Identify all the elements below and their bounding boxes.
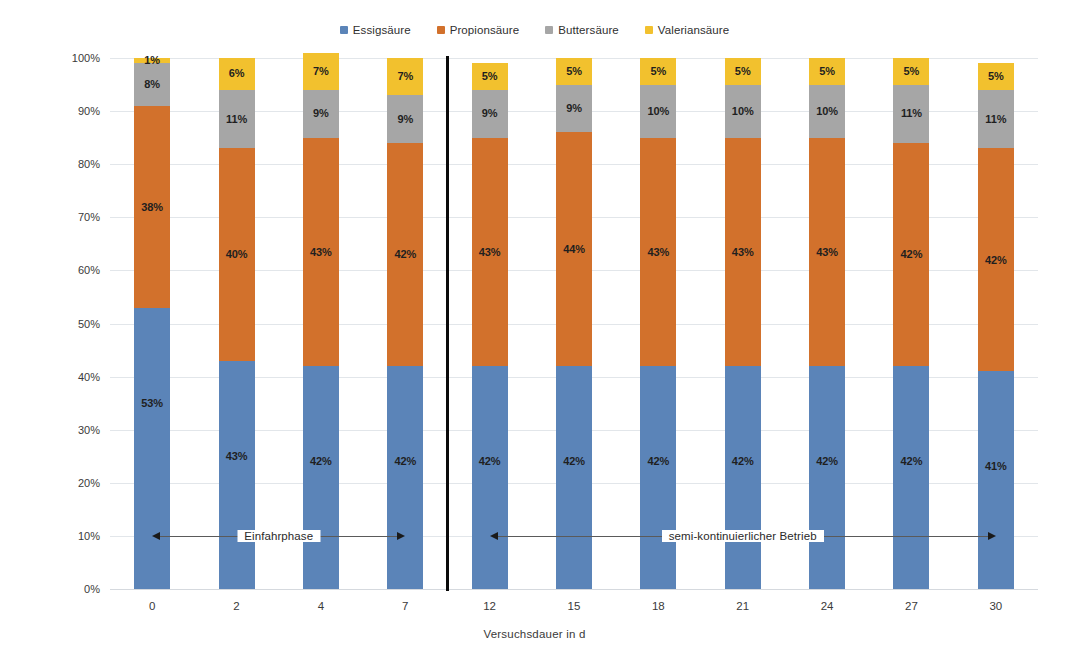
bar-column[interactable]: 41%42%11%5% <box>978 58 1014 589</box>
bar-column[interactable]: 42%43%10%5% <box>725 58 761 589</box>
bar-segment[interactable]: 42% <box>303 366 339 589</box>
bar-column[interactable]: 43%40%11%6% <box>219 58 255 589</box>
legend-item-essigsaeure[interactable]: Essigsäure <box>340 24 411 36</box>
bar-segment[interactable]: 5% <box>472 63 508 90</box>
legend-swatch-essigsaeure <box>340 26 348 34</box>
bar-segment-label: 42% <box>394 456 416 467</box>
bar-segment[interactable]: 1% <box>134 58 170 63</box>
legend-swatch-buttersaeure <box>545 26 553 34</box>
y-axis-tick-label: 20% <box>40 477 100 489</box>
bar-segment[interactable]: 11% <box>893 85 929 143</box>
bar-column[interactable]: 42%43%9%5% <box>472 58 508 589</box>
bar-segment[interactable]: 43% <box>472 138 508 366</box>
bar-segment-label: 43% <box>226 451 248 462</box>
bar-segment[interactable]: 38% <box>134 106 170 308</box>
bar-segment[interactable]: 42% <box>978 148 1014 371</box>
bar-segment-label: 41% <box>985 461 1007 472</box>
bar-segment[interactable]: 40% <box>219 148 255 360</box>
bar-segment-label: 9% <box>566 103 582 114</box>
bar-segment[interactable]: 10% <box>725 85 761 138</box>
bar-segment[interactable]: 42% <box>556 366 592 589</box>
bar-segment[interactable]: 5% <box>893 58 929 85</box>
bar-segment-label: 44% <box>563 244 585 255</box>
legend-label-buttersaeure: Buttersäure <box>558 24 619 36</box>
bar-segment[interactable]: 8% <box>134 63 170 105</box>
bar-segment-label: 42% <box>732 456 754 467</box>
bar-segment[interactable]: 42% <box>725 366 761 589</box>
y-axis-tick-label: 40% <box>40 371 100 383</box>
bar-segment[interactable]: 42% <box>893 366 929 589</box>
bar-segment[interactable]: 6% <box>219 58 255 90</box>
bar-segment[interactable]: 42% <box>893 143 929 366</box>
bar-segment[interactable]: 5% <box>725 58 761 85</box>
bar-segment[interactable]: 10% <box>809 85 845 138</box>
bar-segment[interactable]: 5% <box>978 63 1014 90</box>
bar-segment-label: 10% <box>816 106 838 117</box>
bar-segment-label: 5% <box>904 66 920 77</box>
legend-item-propionsaeure[interactable]: Propionsäure <box>437 24 520 36</box>
bar-column[interactable]: 42%43%10%5% <box>809 58 845 589</box>
bar-segment-label: 9% <box>313 108 329 119</box>
x-axis-tick-label: 7 <box>375 600 435 612</box>
bar-segment-label: 8% <box>144 79 160 90</box>
bar-segment[interactable]: 7% <box>303 53 339 90</box>
x-axis-tick-label: 27 <box>881 600 941 612</box>
bar-segment-label: 42% <box>394 249 416 260</box>
y-axis-tick-label: 100% <box>40 52 100 64</box>
bar-segment[interactable]: 11% <box>219 90 255 148</box>
bar-segment[interactable]: 42% <box>387 143 423 366</box>
x-axis-tick-label: 2 <box>207 600 267 612</box>
bar-segment-label: 43% <box>816 246 838 257</box>
bar-column[interactable]: 42%44%9%5% <box>556 58 592 589</box>
bar-segment[interactable]: 11% <box>978 90 1014 148</box>
bar-segment[interactable]: 9% <box>303 90 339 138</box>
x-axis-tick-label: 15 <box>544 600 604 612</box>
legend-label-essigsaeure: Essigsäure <box>353 24 411 36</box>
bar-segment[interactable]: 43% <box>725 138 761 366</box>
bar-segment[interactable]: 43% <box>219 361 255 589</box>
bar-segment-label: 43% <box>310 246 332 257</box>
bar-segment-label: 5% <box>988 71 1004 82</box>
y-axis-tick-label: 0% <box>40 583 100 595</box>
bar-segment[interactable]: 42% <box>809 366 845 589</box>
bar-segment[interactable]: 42% <box>472 366 508 589</box>
bar-segment[interactable]: 43% <box>640 138 676 366</box>
bar-segment-label: 42% <box>901 456 923 467</box>
bar-segment-label: 42% <box>901 249 923 260</box>
legend-item-valeriansaeure[interactable]: Valeriansäure <box>645 24 729 36</box>
bar-segment-label: 42% <box>563 456 585 467</box>
bar-segment[interactable]: 42% <box>640 366 676 589</box>
bar-segment-label: 43% <box>479 246 501 257</box>
bar-segment[interactable]: 44% <box>556 132 592 366</box>
bar-segment[interactable]: 43% <box>303 138 339 366</box>
bar-segment[interactable]: 43% <box>809 138 845 366</box>
bar-column[interactable]: 42%43%10%5% <box>640 58 676 589</box>
legend-item-buttersaeure[interactable]: Buttersäure <box>545 24 619 36</box>
bar-segment[interactable]: 5% <box>556 58 592 85</box>
bar-segment[interactable]: 53% <box>134 308 170 589</box>
bar-segment-label: 10% <box>732 106 754 117</box>
bar-segment[interactable]: 42% <box>387 366 423 589</box>
bar-column[interactable]: 42%43%9%7% <box>303 58 339 589</box>
bar-segment[interactable]: 10% <box>640 85 676 138</box>
bar-segment[interactable]: 5% <box>640 58 676 85</box>
bar-segment[interactable]: 9% <box>387 95 423 143</box>
bar-column[interactable]: 42%42%9%7% <box>387 58 423 589</box>
bar-segment-label: 53% <box>141 398 163 409</box>
bar-column[interactable]: 53%38%8%1% <box>134 58 170 589</box>
bar-segment[interactable]: 9% <box>556 85 592 133</box>
bar-segment-label: 5% <box>651 66 667 77</box>
bar-segment-label: 42% <box>816 456 838 467</box>
bar-segment[interactable]: 9% <box>472 90 508 138</box>
bar-segment-label: 11% <box>901 108 922 119</box>
bar-segment-label: 11% <box>226 114 247 125</box>
phase-annotation: semi-kontinuierlicher Betrieb <box>490 529 996 543</box>
legend-label-propionsaeure: Propionsäure <box>450 24 520 36</box>
bar-segment-label: 5% <box>819 66 835 77</box>
annotation-arrow-left-icon <box>490 532 498 540</box>
bar-segment[interactable]: 7% <box>387 58 423 95</box>
bar-segment-label: 40% <box>226 249 248 260</box>
bar-column[interactable]: 42%42%11%5% <box>893 58 929 589</box>
bar-segment[interactable]: 5% <box>809 58 845 85</box>
bar-segment[interactable]: 41% <box>978 371 1014 589</box>
